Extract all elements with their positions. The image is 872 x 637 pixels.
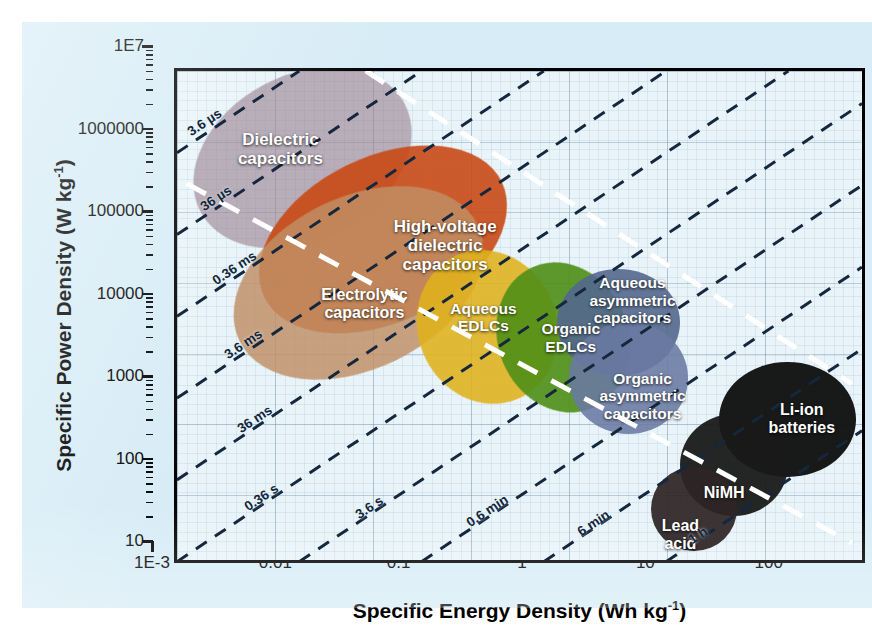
y-minor-tick bbox=[146, 462, 153, 464]
y-minor-tick bbox=[146, 104, 153, 106]
y-minor-tick bbox=[146, 483, 153, 485]
plot-area: Dielectric capacitorsHigh-voltage dielec… bbox=[174, 68, 865, 563]
y-minor-tick bbox=[146, 401, 153, 403]
y-minor-tick bbox=[146, 351, 153, 353]
y-minor-tick bbox=[146, 136, 153, 138]
y-minor-tick bbox=[146, 477, 153, 479]
y-minor-tick bbox=[146, 132, 153, 134]
region-label-electrolytic: Electrolytic capacitors bbox=[321, 286, 407, 322]
x-axis-title: Specific Energy Density (Wh kg-1) bbox=[174, 598, 865, 623]
region-label-aqueous_edlc: Aqueous EDLCs bbox=[450, 299, 516, 334]
isotime-label: 3.6 s bbox=[353, 493, 386, 522]
y-minor-tick bbox=[146, 89, 153, 91]
y-minor-tick bbox=[146, 59, 153, 61]
x-axis-title-exponent: -1 bbox=[668, 598, 680, 613]
y-minor-tick bbox=[146, 471, 153, 473]
y-major-tick bbox=[142, 375, 153, 378]
y-tick-label: 1000000 bbox=[78, 119, 152, 139]
region-label-dielectric: Dielectric capacitors bbox=[238, 130, 323, 168]
y-minor-tick bbox=[146, 244, 153, 246]
y-minor-tick bbox=[146, 54, 153, 56]
y-minor-tick bbox=[146, 326, 153, 328]
y-minor-tick bbox=[146, 516, 153, 518]
y-major-tick bbox=[142, 128, 153, 131]
y-minor-tick bbox=[146, 301, 153, 303]
y-minor-tick bbox=[146, 71, 153, 73]
y-minor-tick bbox=[146, 50, 153, 52]
x-axis-title-main: Specific Energy Density (Wh kg bbox=[353, 599, 668, 622]
y-minor-tick bbox=[146, 380, 153, 382]
y-axis-title-main: Specific Power Density (W kg bbox=[52, 178, 75, 472]
y-minor-tick bbox=[146, 297, 153, 299]
y-major-tick bbox=[142, 458, 153, 461]
isotime-label: 6 min bbox=[575, 506, 613, 538]
isotime-label: 0.36 s bbox=[242, 480, 282, 513]
y-minor-tick bbox=[146, 394, 153, 396]
x-axis-title-close: ) bbox=[679, 599, 686, 622]
y-minor-tick bbox=[146, 172, 153, 174]
y-axis-title: Specific Power Density (W kg-1) bbox=[48, 68, 78, 563]
y-minor-tick bbox=[146, 215, 153, 217]
figure-panel: Specific Power Density (W kg-1) 1E710000… bbox=[22, 22, 872, 608]
y-minor-tick bbox=[146, 312, 153, 314]
y-minor-tick bbox=[146, 236, 153, 238]
y-minor-tick bbox=[146, 502, 153, 504]
region-label-hv_dielectric: High-voltage dielectric capacitors bbox=[394, 217, 497, 274]
y-minor-tick bbox=[146, 337, 153, 339]
y-minor-tick bbox=[146, 306, 153, 308]
y-minor-tick bbox=[146, 229, 153, 231]
region-label-organic_asym: Organic asymmetric capacitors bbox=[599, 370, 685, 422]
y-minor-tick bbox=[146, 269, 153, 271]
y-minor-tick bbox=[146, 141, 153, 143]
y-minor-tick bbox=[146, 224, 153, 226]
y-minor-tick bbox=[146, 389, 153, 391]
y-minor-tick bbox=[146, 491, 153, 493]
y-minor-tick bbox=[146, 254, 153, 256]
y-major-tick bbox=[142, 293, 153, 296]
isotime-label: 0.6 min bbox=[464, 492, 511, 530]
region-label-liion: Li-ion batteries bbox=[768, 401, 835, 437]
region-label-nimh: NiMH bbox=[704, 484, 745, 502]
y-minor-tick bbox=[146, 318, 153, 320]
y-axis-title-exponent: -1 bbox=[51, 166, 66, 178]
y-minor-tick bbox=[146, 64, 153, 66]
y-minor-tick bbox=[146, 161, 153, 163]
region-label-aqueous_asym: Aqueous asymmetric capacitors bbox=[589, 274, 675, 326]
y-minor-tick bbox=[146, 153, 153, 155]
y-axis-title-close: ) bbox=[52, 159, 75, 166]
x-major-tick bbox=[151, 541, 154, 552]
y-minor-tick bbox=[146, 186, 153, 188]
x-tick-label: 1E-3 bbox=[134, 553, 170, 573]
y-minor-tick bbox=[146, 384, 153, 386]
y-major-tick bbox=[142, 210, 153, 213]
y-minor-tick bbox=[146, 434, 153, 436]
y-major-tick bbox=[142, 45, 153, 48]
isotime-label: 36 ms bbox=[234, 402, 274, 436]
y-minor-tick bbox=[146, 147, 153, 149]
y-minor-tick bbox=[146, 79, 153, 81]
y-minor-tick bbox=[146, 466, 153, 468]
y-minor-tick bbox=[146, 419, 153, 421]
y-minor-tick bbox=[146, 219, 153, 221]
y-minor-tick bbox=[146, 409, 153, 411]
